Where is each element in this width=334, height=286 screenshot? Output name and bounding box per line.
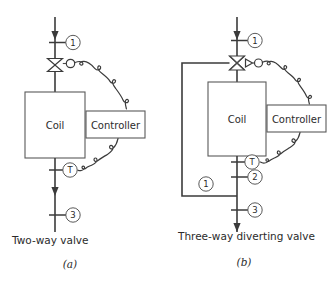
temperature-sensor-a: T (49, 163, 77, 177)
controller-box-a: Controller (86, 111, 145, 138)
bypass-marker-1-b: 1 (199, 177, 213, 191)
coil-box-a: Coil (25, 92, 85, 158)
panel-three-way-diverting-valve: 1 Coil T (177, 17, 326, 268)
controller-label-b: Controller (272, 114, 322, 125)
controller-box-b: Controller (267, 105, 326, 132)
capillary-valve-to-controller-b (262, 61, 311, 104)
coil-box-b: Coil (208, 82, 266, 156)
diagram-canvas: 1 Coil T 3 (0, 0, 334, 286)
figure-label-b: (b) (237, 256, 252, 268)
two-way-valve-symbol-a (48, 59, 75, 72)
coil-label-b: Coil (228, 114, 247, 125)
panel-two-way-valve: 1 Coil T 3 (11, 17, 145, 270)
temperature-sensor-a-label: T (66, 165, 73, 175)
temperature-sensor-b-label: T (248, 157, 255, 167)
port-marker-3-b-label: 3 (252, 205, 257, 215)
port-marker-2-b: 2 (231, 170, 262, 184)
caption-a: Two-way valve (11, 234, 88, 246)
bypass-marker-1-b-label: 1 (203, 179, 208, 189)
three-way-valve-symbol-b (230, 56, 263, 70)
port-marker-3-b: 3 (231, 203, 262, 217)
coil-label-a: Coil (46, 120, 65, 131)
temperature-sensor-b: T (231, 155, 259, 169)
port-marker-1-a: 1 (49, 35, 80, 49)
controller-label-a: Controller (91, 120, 141, 131)
port-marker-1-b-label: 1 (252, 36, 257, 46)
port-marker-3-a: 3 (49, 208, 80, 222)
port-marker-1-a-label: 1 (70, 38, 75, 48)
port-marker-2-b-label: 2 (252, 172, 257, 182)
port-marker-3-a-label: 3 (70, 210, 75, 220)
outlet-flow-arrow-a (51, 187, 58, 196)
figure-label-a: (a) (63, 258, 77, 270)
caption-b: Three-way diverting valve (177, 230, 315, 242)
